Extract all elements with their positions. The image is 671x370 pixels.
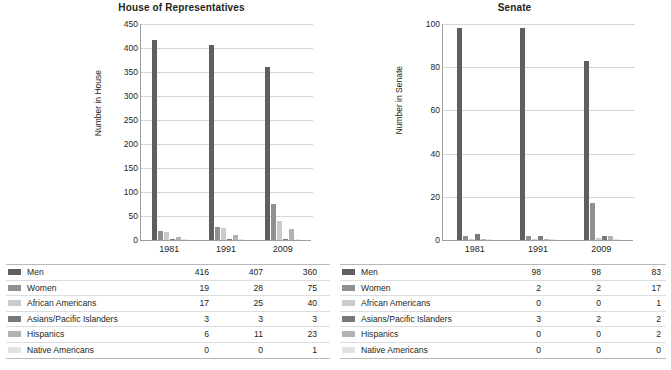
legend-value: 0: [601, 345, 661, 355]
bar-cluster: [520, 24, 555, 240]
legend-value: 0: [209, 345, 263, 355]
legend-value: 2: [601, 329, 661, 339]
house-x-tick-labels: 198119912009: [141, 240, 311, 254]
senate-bar-group: [506, 24, 569, 240]
legend-row: Women192875: [6, 281, 330, 297]
house-y-tick: 50: [129, 212, 138, 220]
bar-men: [520, 28, 525, 240]
legend-value: 40: [263, 298, 317, 308]
senate-y-axis-title: Number in Senate: [394, 66, 404, 135]
legend-swatch-women: [8, 285, 21, 291]
legend-value: 17: [601, 283, 661, 293]
legend-value: 2: [541, 314, 601, 324]
senate-x-tick: 1991: [506, 240, 569, 254]
legend-value: 0: [481, 329, 541, 339]
senate-chart-title: Senate: [336, 2, 671, 13]
house-y-tick: 100: [124, 188, 138, 196]
bar-men: [584, 61, 589, 240]
figure-root: House of Representatives Number in House…: [0, 0, 671, 370]
house-y-tick: 200: [124, 140, 138, 148]
legend-label: Asians/Pacific Islanders: [361, 314, 481, 324]
house-plot-area: 198119912009: [140, 24, 311, 241]
senate-x-tick: 2009: [570, 240, 633, 254]
legend-label: Native Americans: [361, 345, 481, 355]
senate-y-tick: 60: [431, 106, 440, 114]
legend-value: 25: [209, 298, 263, 308]
bar-women: [271, 204, 276, 240]
legend-swatch-african_americans: [8, 300, 21, 306]
legend-value: 1: [601, 298, 661, 308]
bar-cluster: [265, 24, 300, 240]
house-bar-group: [254, 24, 311, 240]
legend-swatch-hispanics: [342, 331, 355, 337]
senate-bar-group: [570, 24, 633, 240]
house-x-tick: 2009: [254, 240, 311, 254]
legend-value: 98: [541, 267, 601, 277]
legend-label: Native Americans: [27, 345, 155, 355]
legend-value: 19: [155, 283, 209, 293]
bar-cluster: [152, 24, 187, 240]
legend-row: Native Americans000: [340, 343, 666, 359]
senate-plot-wrap: Number in Senate 020406080100 1981199120…: [336, 14, 671, 246]
legend-swatch-native_americans: [342, 347, 355, 353]
senate-y-tick: 40: [431, 150, 440, 158]
house-legend-table: Men416407360Women192875African Americans…: [6, 264, 330, 359]
legend-row: Asians/Pacific Islanders333: [6, 312, 330, 328]
legend-swatch-men: [342, 269, 355, 275]
bar-men: [265, 67, 270, 240]
house-chart-title: House of Representatives: [0, 2, 335, 13]
legend-value: 2: [481, 283, 541, 293]
bar-cluster: [584, 24, 619, 240]
bar-cluster: [457, 24, 492, 240]
bar-men: [457, 28, 462, 240]
house-y-tick: 0: [133, 236, 138, 244]
legend-swatch-asians_pacific_islanders: [8, 316, 21, 322]
house-plot-wrap: Number in House 050100150200250300350400…: [0, 14, 335, 246]
legend-value: 3: [263, 314, 317, 324]
senate-chart-panel: Senate Number in Senate 020406080100 198…: [336, 0, 671, 370]
house-bar-groups: [141, 24, 311, 240]
legend-value: 98: [481, 267, 541, 277]
legend-row: Men416407360: [6, 265, 330, 281]
legend-swatch-native_americans: [8, 347, 21, 353]
legend-value: 360: [263, 267, 317, 277]
legend-value: 11: [209, 329, 263, 339]
legend-row: Women2217: [340, 281, 666, 297]
bar-hispanics: [289, 229, 294, 240]
legend-label: Men: [27, 267, 155, 277]
house-y-tick-labels: 050100150200250300350400450: [104, 14, 138, 246]
legend-value: 3: [481, 314, 541, 324]
senate-bar-groups: [443, 24, 633, 240]
bar-cluster: [209, 24, 244, 240]
house-y-tick: 400: [124, 44, 138, 52]
house-x-tick: 1991: [198, 240, 255, 254]
house-y-tick: 250: [124, 116, 138, 124]
house-bar-group: [198, 24, 255, 240]
legend-value: 0: [155, 345, 209, 355]
senate-y-tick: 20: [431, 193, 440, 201]
legend-value: 0: [541, 298, 601, 308]
legend-row: Native Americans001: [6, 343, 330, 359]
legend-label: Asians/Pacific Islanders: [27, 314, 155, 324]
legend-value: 2: [601, 314, 661, 324]
legend-swatch-men: [8, 269, 21, 275]
legend-value: 3: [155, 314, 209, 324]
legend-value: 1: [263, 345, 317, 355]
senate-y-tick-labels: 020406080100: [406, 14, 440, 246]
legend-row: Hispanics002: [340, 327, 666, 343]
senate-y-tick: 0: [435, 236, 440, 244]
house-chart-panel: House of Representatives Number in House…: [0, 0, 335, 370]
legend-swatch-hispanics: [8, 331, 21, 337]
legend-value: 17: [155, 298, 209, 308]
house-x-tick: 1981: [141, 240, 198, 254]
senate-y-tick: 100: [426, 20, 440, 28]
senate-y-tick: 80: [431, 63, 440, 71]
legend-row: African Americans001: [340, 296, 666, 312]
house-y-tick: 300: [124, 92, 138, 100]
legend-value: 0: [481, 345, 541, 355]
legend-value: 0: [481, 298, 541, 308]
legend-label: Women: [361, 283, 481, 293]
house-y-tick: 150: [124, 164, 138, 172]
legend-swatch-african_americans: [342, 300, 355, 306]
senate-legend-table: Men989883Women2217African Americans001As…: [340, 264, 666, 359]
